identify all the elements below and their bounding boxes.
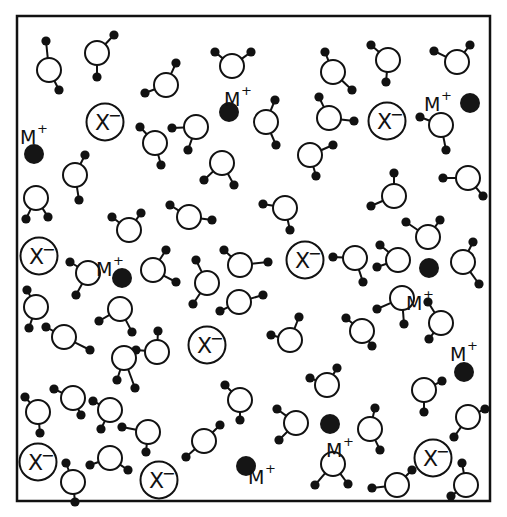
cation-symbol: M [96,258,112,280]
water-molecule [85,30,119,81]
water-molecule [65,257,100,299]
oxygen-atom [343,246,367,270]
oxygen-atom [24,295,48,319]
hydrogen-atom [43,212,52,221]
water-molecule [298,140,338,180]
hydrogen-atom [258,290,267,299]
hydrogen-atom [446,491,455,500]
hydrogen-atom [474,279,483,288]
hydrogen-atom [153,326,162,335]
oxygen-atom [37,58,61,82]
oxygen-atom [63,163,87,187]
hydrogen-atom [21,214,30,223]
oxygen-atom [358,417,382,441]
oxygen-atom [177,205,201,229]
oxygen-atom [112,346,136,370]
hydrogen-atom [188,299,197,308]
oxygen-atom [382,184,406,208]
anion-charge: − [41,446,54,465]
water-molecule [254,95,281,149]
hydrogen-atom [141,447,150,456]
hydrogen-atom [123,465,132,474]
cation-charge: + [467,338,478,353]
oxygen-atom [321,60,345,84]
oxygen-atom [143,131,167,155]
hydrogen-atom [372,262,381,271]
hydrogen-atom [347,85,356,94]
hydrogen-atom [449,432,458,441]
hydrogen-atom [343,479,352,488]
hydrogen-atom [349,116,358,125]
anion-charge: − [308,244,321,263]
water-molecule [415,112,453,154]
cation-symbol: M [424,93,440,115]
hydrogen-atom [161,245,170,254]
ion-solvation-diagram: X−X−X−X−X−X−X−X− M+M+M+M+M+M+M+M+ [0,0,507,517]
water-molecule [358,403,385,454]
oxygen-atom [429,113,453,137]
cation-charge: + [113,253,124,268]
water-molecule [372,240,410,272]
hydrogen-atom [294,312,303,321]
anion-x: X− [87,104,124,141]
hydrogen-atom [92,72,101,81]
oxygen-atom [278,328,302,352]
anion-charge: − [436,442,449,461]
hydrogen-atom [367,483,376,492]
hydrogen-atom [305,373,314,382]
hydrogen-atom [367,341,376,350]
water-molecule [88,396,122,433]
hydrogen-atom [71,290,80,299]
water-molecule [85,446,132,475]
hydrogen-atom [41,322,50,331]
hydrogen-atom [117,422,126,431]
anion-charge: − [162,464,175,483]
oxygen-atom [227,290,251,314]
oxygen-atom [445,50,469,74]
hydrogen-atom [310,480,319,489]
oxygen-atom [108,297,132,321]
hydrogen-atom [366,40,375,49]
hydrogen-atom [191,255,200,264]
hydrogen-atom [435,215,444,224]
hydrogen-atom [381,77,390,86]
water-molecule [199,151,238,190]
water-molecule [451,237,484,288]
water-molecule [258,196,297,235]
water-molecule [140,58,180,97]
water-molecule [21,186,52,224]
hydrogen-atom [22,285,31,294]
oxygen-atom [26,400,50,424]
water-molecule [117,420,160,457]
hydrogen-atom [401,217,410,226]
hydrogen-atom [127,327,136,336]
cation-symbol: M [406,292,422,314]
oxygen-atom [456,166,480,190]
container-frame [17,16,490,501]
hydrogen-atom [140,88,149,97]
water-molecule [20,392,50,437]
oxygen-atom [284,411,308,435]
diagram-canvas: X−X−X−X−X−X−X−X− M+M+M+M+M+M+M+M+ [0,0,507,517]
oxygen-atom [385,473,409,497]
hydrogen-atom [366,201,375,210]
water-molecule [401,215,444,249]
hydrogen-atom [341,313,350,322]
oxygen-atom [52,325,76,349]
water-molecule [366,168,406,210]
oxygen-atom [61,386,85,410]
hydrogen-atom [85,345,94,354]
water-molecule [49,384,85,419]
water-molecule [219,245,272,277]
hydrogen-atom [80,150,89,159]
hydrogen-atom [465,40,474,49]
hydrogen-atom [285,225,294,234]
hydrogen-atom [270,95,279,104]
cation-charge: + [241,83,252,98]
cation-charge: + [441,88,452,103]
anion-x: X− [20,444,57,481]
hydrogen-atom [112,375,121,384]
water-molecule [167,115,208,155]
oxygen-atom [317,106,341,130]
water-molecule [320,47,356,94]
